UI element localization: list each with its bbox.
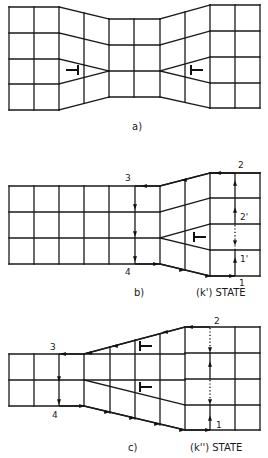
arrow-down-icon [208, 399, 212, 405]
panel-c-burgers-circuit: 2134c)(k'') STATE [9, 316, 260, 453]
arrow-down-icon [133, 231, 137, 237]
arrow-right-icon [229, 274, 235, 278]
lattice-grid [9, 327, 260, 430]
circuit-point-label: 3 [125, 173, 131, 183]
edge-dislocation-icon [191, 65, 203, 75]
panel-caption: a) [132, 121, 142, 132]
edge-dislocation-icon [66, 65, 78, 75]
state-label: (k'') STATE [190, 442, 242, 453]
arrow-down-icon [133, 204, 137, 210]
arrow-up-icon [233, 207, 237, 213]
circuit-point-label: 2 [214, 316, 220, 326]
arrow-down-icon [133, 256, 137, 262]
arrow-left-icon [141, 184, 147, 188]
dislocation-lattice-diagram: a) 22'1'134b)(k') STATE 2134c)(k'') STAT… [0, 0, 268, 458]
arrow-right-icon [129, 416, 135, 420]
arrow-up-icon [233, 180, 237, 186]
arrow-right-icon [179, 268, 185, 272]
circuit-point-label: 2 [238, 160, 244, 170]
edge-dislocation-icon [140, 382, 152, 392]
lattice-grid [9, 5, 260, 110]
arrow-down-icon [233, 240, 237, 246]
state-label: (k') STATE [196, 287, 246, 298]
arrow-down-icon [208, 347, 212, 353]
edge-dislocation-icon [194, 232, 206, 242]
arrow-down-icon [57, 376, 61, 382]
arrow-left-icon [187, 325, 193, 329]
panel-caption: b) [134, 287, 144, 298]
arrow-left-icon [215, 171, 221, 175]
edge-dislocation-icon [140, 341, 152, 351]
circuit-point-label: 1 [216, 420, 222, 430]
arrow-up-icon [208, 415, 212, 421]
arrow-right-icon [153, 262, 159, 266]
arrow-up-icon [233, 257, 237, 263]
circuit-point-label: 3 [50, 342, 56, 352]
panel-a-lattice: a) [9, 5, 260, 132]
arrow-right-icon [154, 422, 160, 426]
arrow-left-icon [181, 178, 187, 182]
panel-b-burgers-circuit: 22'1'134b)(k') STATE [9, 160, 260, 298]
arrow-up-icon [208, 361, 212, 367]
arrow-left-icon [112, 344, 118, 348]
circuit-point-label: 1' [240, 254, 248, 264]
arrow-right-icon [104, 410, 110, 414]
circuit-point-label: 4 [125, 267, 131, 277]
circuit-point-label: 4 [52, 410, 58, 420]
circuit-point-label: 2' [240, 212, 248, 222]
arrow-down-icon [57, 399, 61, 405]
arrow-right-icon [179, 428, 185, 432]
panel-caption: c) [128, 442, 137, 453]
arrow-left-icon [60, 352, 66, 356]
